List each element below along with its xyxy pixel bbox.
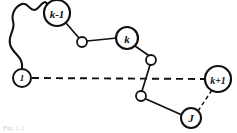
node-k[interactable]: k bbox=[116, 27, 138, 49]
wavy-curve bbox=[10, 2, 48, 69]
node-k-minus-1-label: k-1 bbox=[50, 8, 65, 20]
node-small-a[interactable] bbox=[77, 37, 87, 47]
node-small-b[interactable] bbox=[146, 55, 156, 65]
node-k-minus-1[interactable]: k-1 bbox=[44, 0, 70, 26]
node-1[interactable]: 1 bbox=[13, 69, 31, 87]
node-small-a-circle[interactable] bbox=[77, 37, 87, 47]
node-k-plus-1[interactable]: k+1 bbox=[205, 66, 231, 92]
path-diagram: 1 k-1 k J k+1 Fig. 1.1 bbox=[0, 0, 237, 133]
node-small-c-circle[interactable] bbox=[136, 91, 146, 101]
edges-dashed-group bbox=[32, 78, 212, 111]
figure-canvas: 1 k-1 k J k+1 Fig. 1.1 bbox=[0, 0, 237, 133]
edge-smallc-j bbox=[146, 99, 182, 115]
node-k-label: k bbox=[124, 33, 130, 45]
node-small-c[interactable] bbox=[136, 91, 146, 101]
node-k-plus-1-label: k+1 bbox=[210, 75, 226, 86]
edge-kminus1-smalla bbox=[66, 23, 79, 38]
node-1-label: 1 bbox=[20, 73, 25, 83]
figure-caption: Fig. 1.1 bbox=[3, 124, 25, 132]
wavy-curve-group bbox=[10, 2, 48, 69]
edge-smalla-k bbox=[87, 38, 117, 41]
node-j[interactable]: J bbox=[181, 108, 201, 128]
edge-j-to-kplus1-dashed bbox=[198, 90, 212, 111]
node-j-label: J bbox=[187, 112, 194, 124]
edge-k-smallb bbox=[135, 46, 148, 55]
edge-1-to-kplus1-dashed bbox=[32, 78, 205, 79]
node-small-b-circle[interactable] bbox=[146, 55, 156, 65]
